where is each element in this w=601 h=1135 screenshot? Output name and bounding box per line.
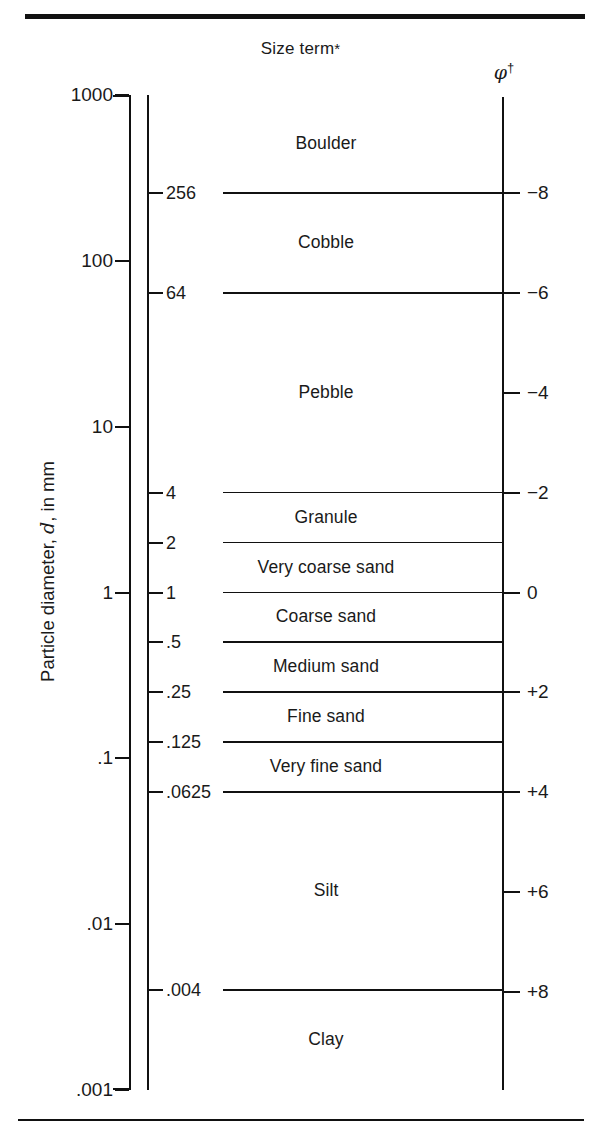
phi-symbol: φ [494,61,507,83]
top-rule [25,14,585,19]
class-name-label: Very fine sand [149,758,503,776]
boundary-value-label: 4 [166,484,176,502]
phi-axis-tick [504,492,520,494]
phi-axis-tick [504,592,520,594]
class-boundary-line [223,492,503,494]
phi-footnote-marker: † [507,60,514,75]
phi-axis-tick [504,392,520,394]
size-term-footnote-marker: * [334,40,340,57]
y-axis-title-suffix: , in mm [37,461,58,522]
class-boundary-line [223,691,503,693]
boundary-value-label: .25 [166,683,191,701]
class-boundary-line [223,741,503,743]
phi-axis-tick [504,891,520,893]
phi-header: φ† [478,60,530,84]
boundary-tick [149,641,163,643]
boundary-tick [149,192,163,194]
mm-axis-tick [115,757,129,759]
phi-axis-tick [504,192,520,194]
phi-axis-tick-label: +6 [527,882,549,901]
phi-axis-tick [504,791,520,793]
class-boundary-line [223,989,503,991]
mm-axis-tick [115,1089,129,1091]
boundary-value-label: 256 [166,184,196,202]
boundary-value-label: .125 [166,733,201,751]
boundary-value-label: 64 [166,284,186,302]
class-name-label: Boulder [149,135,503,153]
phi-axis-tick [504,691,520,693]
class-name-label: Cobble [149,234,503,252]
mm-axis-tick [115,260,129,262]
y-axis-title: Particle diameter, d, in mm [36,407,59,737]
boundary-value-label: 1 [166,584,176,602]
class-boundary-line [223,592,503,594]
phi-axis-tick-label: −8 [527,183,549,202]
mm-axis-tick-label-text: .1 [41,748,113,767]
mm-axis-tick-label-text: .001 [41,1080,113,1099]
class-name-label: Very coarse sand [149,559,503,577]
mm-axis-tick-label-text: 1000 [41,85,113,104]
mm-axis-tick-label-text: 100 [41,251,113,270]
mm-axis-tick-label-text: 1 [41,583,113,602]
size-term-header-text: Size term [261,39,335,58]
phi-axis-tick-label: +8 [527,982,549,1001]
class-name-label: Medium sand [149,658,503,676]
phi-axis-tick [504,991,520,993]
phi-axis-tick-label: +2 [527,682,549,701]
boundary-tick [149,791,163,793]
class-boundary-line [223,192,503,194]
boundary-value-label: .5 [166,633,181,651]
class-name-label: Granule [149,509,503,527]
boundary-tick [149,492,163,494]
phi-axis-tick-label: +4 [527,782,549,801]
class-boundary-line [223,641,503,643]
boundary-value-label: .004 [166,981,201,999]
mm-axis-tick [115,592,129,594]
mm-axis-line [129,95,131,1090]
boundary-value-label: .0625 [166,783,211,801]
grain-size-chart: Size term* φ† Particle diameter, d, in m… [0,0,601,1135]
y-axis-title-symbol: d [36,522,58,534]
class-name-label: Fine sand [149,708,503,726]
phi-axis-tick-label: −2 [527,483,549,502]
phi-axis-tick-label: −6 [527,283,549,302]
class-name-label: Pebble [149,384,503,402]
boundary-tick [149,989,163,991]
boundary-tick [149,292,163,294]
phi-axis-tick [504,292,520,294]
boundary-tick [149,542,163,544]
size-term-header: Size term* [0,39,601,59]
boundary-tick [149,592,163,594]
class-boundary-line [223,292,503,294]
class-boundary-line [223,542,503,544]
mm-axis-tick-label-text: 10 [41,417,113,436]
class-name-label: Silt [149,882,503,900]
bottom-rule [18,1119,584,1121]
y-axis-title-prefix: Particle diameter, [37,534,58,682]
boundary-value-label: 2 [166,534,176,552]
class-name-label: Coarse sand [149,608,503,626]
boundary-tick [149,691,163,693]
mm-axis-tick [115,94,129,96]
class-boundary-line [223,791,503,793]
mm-axis-tick [115,426,129,428]
mm-axis-tick [115,923,129,925]
class-name-label: Clay [149,1031,503,1049]
boundary-tick [149,741,163,743]
phi-axis-tick-label: −4 [527,383,549,402]
phi-axis-tick-label: 0 [527,583,538,602]
mm-axis-tick-label-text: .01 [41,914,113,933]
